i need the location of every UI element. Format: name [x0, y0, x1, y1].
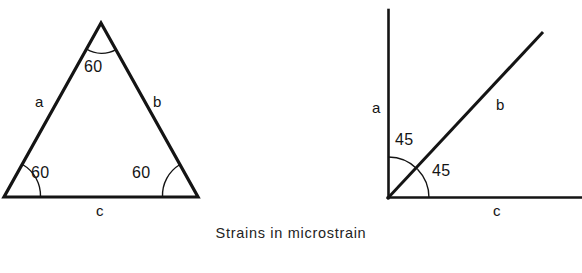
rosette-angle-label-lower: 45 — [432, 163, 451, 179]
triangle-angle-label-bottom-right: 60 — [132, 165, 151, 181]
rosette-side-label-c: c — [493, 203, 501, 218]
diagonal-axis-b-line — [388, 33, 542, 198]
bottom-right-angle-arc-icon — [162, 165, 180, 198]
triangle-angle-label-apex: 60 — [84, 59, 103, 75]
rosette-side-label-b: b — [496, 97, 505, 112]
figure-caption: Strains in microstrain — [0, 225, 582, 241]
rosette-side-label-a: a — [372, 100, 381, 115]
apex-angle-arc-icon — [87, 49, 117, 53]
triangle-side-label-b: b — [153, 94, 162, 109]
upper-45-angle-arc-icon — [388, 157, 418, 169]
triangle-side-label-c: c — [96, 203, 104, 218]
figure-root: a b c 60 60 60 a b c 45 45 Strains in mi… — [0, 0, 582, 273]
rectangular-rosette-diagram — [388, 10, 582, 198]
lower-45-angle-arc-icon — [418, 169, 430, 198]
triangle-side-label-a: a — [35, 94, 44, 109]
rosette-angle-label-upper: 45 — [395, 132, 414, 148]
triangle-angle-label-bottom-left: 60 — [31, 165, 50, 181]
